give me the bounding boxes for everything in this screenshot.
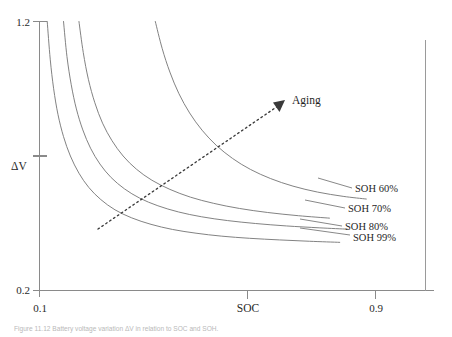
aging-arrowhead xyxy=(273,100,285,112)
x-tick-label-right: 0.9 xyxy=(369,302,383,314)
y-tick-label-top: 1.2 xyxy=(16,16,30,28)
leader-soh-70 xyxy=(305,200,345,208)
curve-label-soh-99: SOH 99% xyxy=(353,232,396,243)
x-tick-label-left: 0.1 xyxy=(33,302,47,314)
chart-canvas: 1.2 0.2 0.1 0.9 ΔV SOC SOH 60% SOH 70% S… xyxy=(0,0,452,337)
aging-annotation xyxy=(98,100,285,229)
axis-ticks xyxy=(33,22,376,300)
curve-soh-99 xyxy=(47,22,340,243)
figure-caption: Figure 11.12 Battery voltage variation Δ… xyxy=(14,324,444,333)
figure-container: 1.2 0.2 0.1 0.9 ΔV SOC SOH 60% SOH 70% S… xyxy=(0,0,452,337)
chart-text-layer: 1.2 0.2 0.1 0.9 ΔV SOC SOH 60% SOH 70% S… xyxy=(11,16,398,315)
x-axis-title: SOC xyxy=(237,302,260,314)
soh-curves xyxy=(47,22,366,243)
leader-soh-60 xyxy=(318,178,352,188)
y-axis-title: ΔV xyxy=(11,160,27,172)
curve-label-soh-60: SOH 60% xyxy=(355,183,398,194)
axes-frame xyxy=(40,22,435,291)
curve-soh-70 xyxy=(79,22,329,219)
aging-label: Aging xyxy=(292,94,321,107)
curve-label-soh-80: SOH 80% xyxy=(345,221,388,232)
curve-label-soh-70: SOH 70% xyxy=(348,203,391,214)
y-tick-label-bottom: 0.2 xyxy=(16,284,30,296)
leader-soh-80 xyxy=(300,219,342,226)
curve-soh-80 xyxy=(64,22,348,230)
curve-soh-60 xyxy=(155,22,366,200)
